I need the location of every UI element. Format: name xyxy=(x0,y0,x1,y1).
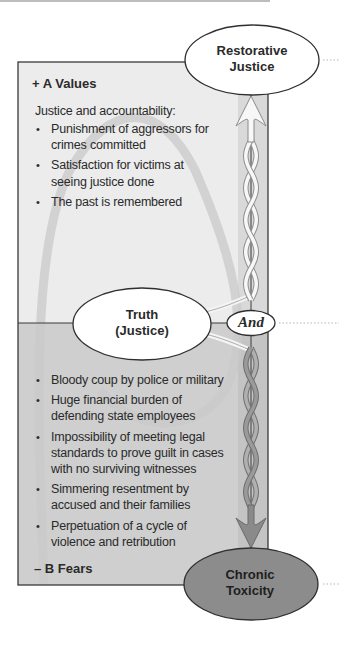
bottom-node-line2: Toxicity xyxy=(198,583,302,599)
fears-item: Simmering resentment by accused and thei… xyxy=(36,481,234,513)
center-node-line1: Truth xyxy=(90,307,194,323)
center-node-line2: (Justice) xyxy=(90,323,194,339)
values-item: The past is remembered xyxy=(36,194,221,210)
center-node-label: Truth (Justice) xyxy=(90,307,194,339)
fears-item: Perpetuation of a cycle of violence and … xyxy=(36,518,234,550)
values-list: Punishment of aggressors for crimes comm… xyxy=(36,121,221,214)
top-node-label: Restorative Justice xyxy=(200,43,304,75)
fears-list: Bloody coup by police or military Huge f… xyxy=(36,372,234,554)
bottom-node-line1: Chronic xyxy=(198,567,302,583)
values-heading: + A Values xyxy=(32,76,96,91)
values-intro: Justice and accountability: xyxy=(35,103,176,120)
fears-item: Bloody coup by police or military xyxy=(36,372,234,388)
values-item: Satisfaction for victims at seeing justi… xyxy=(36,157,221,189)
fears-item: Impossibility of meeting legal standards… xyxy=(36,429,234,478)
fears-item: Huge financial burden of defending state… xyxy=(36,392,234,424)
top-node-line1: Restorative xyxy=(200,43,304,59)
and-label: And xyxy=(229,314,273,331)
top-node-line2: Justice xyxy=(200,59,304,75)
fears-heading: – B Fears xyxy=(34,561,93,576)
values-item: Punishment of aggressors for crimes comm… xyxy=(36,121,221,153)
bottom-node-label: Chronic Toxicity xyxy=(198,567,302,599)
